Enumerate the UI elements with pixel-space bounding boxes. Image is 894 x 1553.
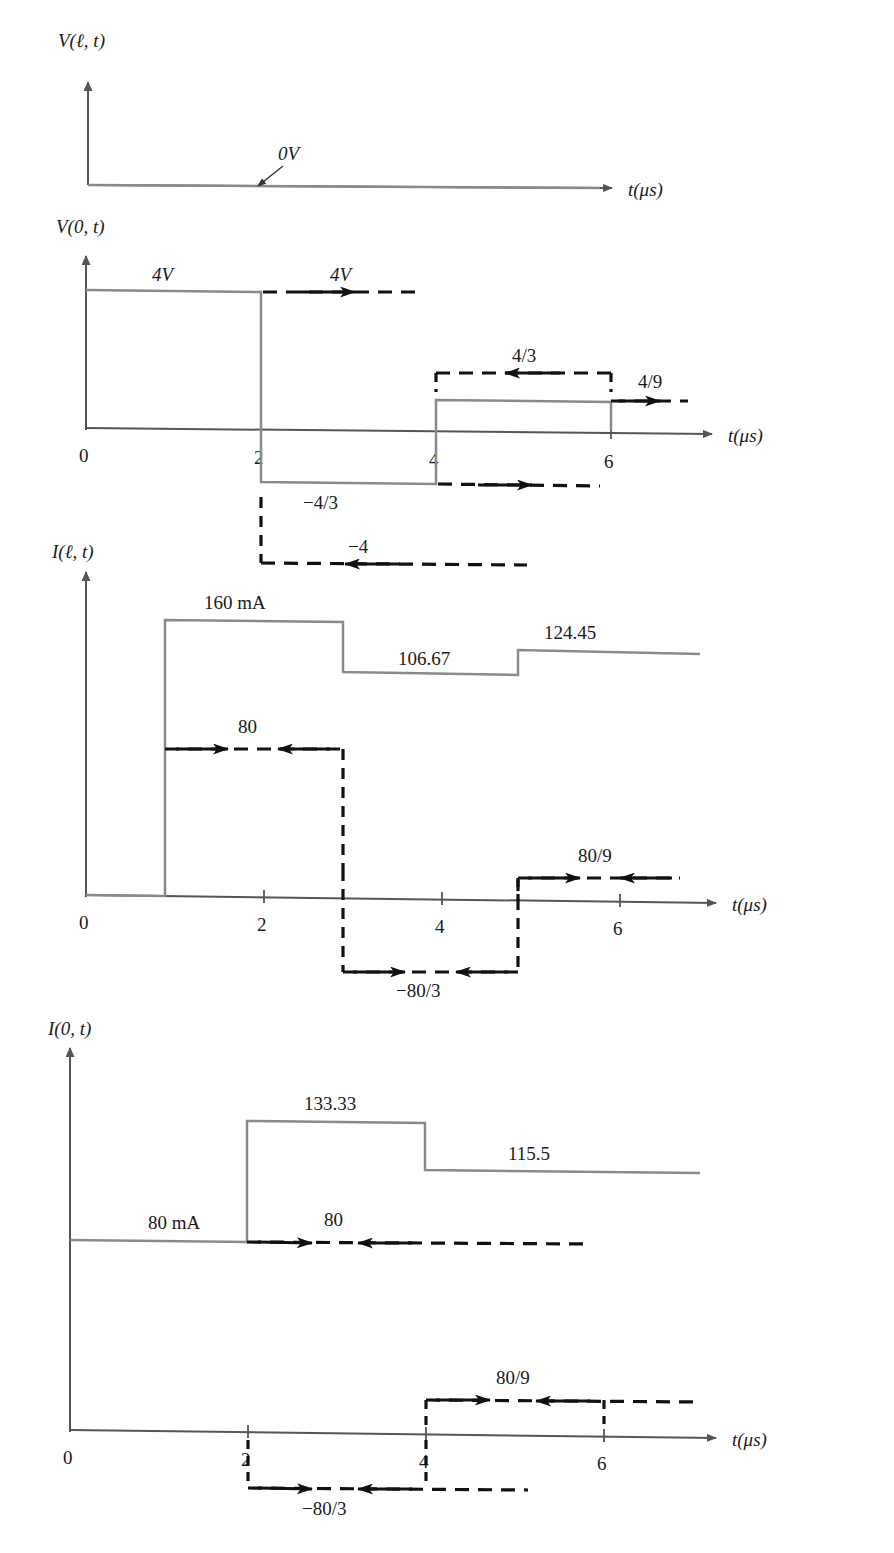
i-l-t-label-106-67: 106.67	[398, 648, 450, 669]
i-l-t-label-80-9: 80/9	[578, 845, 612, 866]
i-l-t-label-160: 160 mA	[204, 592, 266, 613]
v-0-t-label-neg-4-3: −4/3	[303, 492, 338, 513]
v-0-t-label-neg-4: −4	[348, 536, 369, 557]
v-0-t-label-4-9: 4/9	[638, 371, 662, 392]
panel-i-l-t: I(ℓ, t) t(μs) 0 2 4 6 160 mA 106.67 124.…	[51, 541, 767, 1001]
v-l-t-zero-trace	[88, 185, 600, 188]
panel-v-l-t-title: V(ℓ, t)	[58, 30, 105, 52]
i-l-t-tick-label-0: 0	[79, 912, 89, 933]
v-l-t-zero-leader-arrow-icon	[258, 166, 283, 186]
i-0-t-dashed-80-arrow-right-icon	[258, 1242, 312, 1243]
i-0-t-label-80-9: 80/9	[496, 1367, 530, 1388]
panel-i-0-t: I(0, t) t(μs) 0 2 4 6 80 mA 133.33 115.5…	[47, 1018, 767, 1519]
i-l-t-tick-label-6: 6	[613, 918, 623, 939]
panel-i-l-t-title: I(ℓ, t)	[51, 541, 94, 563]
i-0-t-label-80ma: 80 mA	[148, 1212, 201, 1233]
transmission-line-bounce-diagram-figure: V(ℓ, t) t(μs) 0V V(0, t) t(μs) 0 2 4 6 4…	[0, 0, 894, 1553]
i-0-t-dashed-neg-80-3-arrow-right-icon	[258, 1488, 312, 1489]
v-0-t-tick-label-0: 0	[79, 445, 89, 466]
v-0-t-label-4v-dashed: 4V	[330, 264, 354, 285]
i-0-t-x-axis-label: t(μs)	[732, 1429, 767, 1451]
panel-v-l-t: V(ℓ, t) t(μs) 0V	[58, 30, 663, 201]
v-0-t-label-4v-solid: 4V	[152, 264, 176, 285]
v-0-t-tick-label-6: 6	[604, 451, 614, 472]
i-l-t-label-80: 80	[238, 716, 257, 737]
panel-v-0-t-title: V(0, t)	[56, 216, 105, 238]
i-l-t-label-neg-80-3: −80/3	[396, 980, 441, 1001]
v-0-t-label-4-3: 4/3	[512, 345, 536, 366]
i-0-t-label-neg-80-3: −80/3	[302, 1498, 347, 1519]
v-0-t-x-axis	[86, 428, 712, 434]
i-l-t-tick-label-2: 2	[257, 914, 267, 935]
v-0-t-tick-label-4: 4	[429, 449, 439, 470]
i-0-t-label-115-5: 115.5	[508, 1143, 550, 1164]
i-l-t-x-axis-label: t(μs)	[732, 894, 767, 916]
v-l-t-x-axis-label: t(μs)	[628, 179, 663, 201]
i-l-t-label-124-45: 124.45	[544, 622, 596, 643]
i-l-t-x-axis	[86, 895, 716, 903]
panel-i-0-t-title: I(0, t)	[47, 1018, 91, 1040]
v-l-t-zero-label: 0V	[278, 143, 302, 164]
v-0-t-x-axis-label: t(μs)	[728, 425, 763, 447]
v-0-t-solid-waveform	[86, 290, 611, 484]
i-l-t-tick-label-4: 4	[435, 916, 445, 937]
i-0-t-label-133-33: 133.33	[304, 1093, 356, 1114]
i-0-t-label-80: 80	[324, 1209, 343, 1230]
i-0-t-x-axis	[70, 1430, 716, 1438]
i-0-t-tick-label-6: 6	[597, 1453, 607, 1474]
i-0-t-tick-label-0: 0	[63, 1447, 73, 1468]
panel-v-0-t: V(0, t) t(μs) 0 2 4 6 4V 4V 4/3 4/9 −4/3	[56, 216, 763, 565]
